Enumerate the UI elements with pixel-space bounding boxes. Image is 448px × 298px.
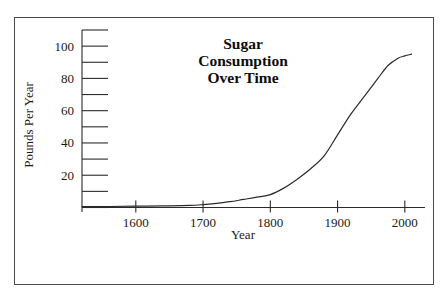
x-tick-label-1900: 1900 bbox=[325, 215, 351, 230]
y-tick-label-40: 40 bbox=[61, 135, 74, 150]
x-tick-label-1600: 1600 bbox=[123, 215, 149, 230]
x-tick-label-2000: 2000 bbox=[392, 215, 418, 230]
chart-plot: 20406080100 16001700180019002000 Sugar C… bbox=[0, 0, 448, 298]
y-axis-title: Pounds Per Year bbox=[21, 82, 36, 168]
figure-container: 20406080100 16001700180019002000 Sugar C… bbox=[0, 0, 448, 298]
x-tick-label-1700: 1700 bbox=[190, 215, 216, 230]
y-tick-label-100: 100 bbox=[55, 39, 75, 54]
y-tick-label-80: 80 bbox=[61, 71, 74, 86]
x-tick-label-1800: 1800 bbox=[257, 215, 283, 230]
chart-title-line-1: Sugar bbox=[223, 35, 263, 52]
x-axis-ticks bbox=[136, 201, 405, 213]
y-axis-tick-labels: 20406080100 bbox=[55, 39, 75, 183]
chart-title-line-2: Consumption bbox=[198, 52, 288, 69]
y-tick-label-20: 20 bbox=[61, 168, 74, 183]
y-tick-label-60: 60 bbox=[61, 103, 74, 118]
chart-title-line-3: Over Time bbox=[207, 69, 278, 86]
y-axis-ticks bbox=[82, 30, 108, 208]
x-axis-title: Year bbox=[231, 227, 256, 242]
x-axis-tick-labels: 16001700180019002000 bbox=[123, 215, 418, 230]
